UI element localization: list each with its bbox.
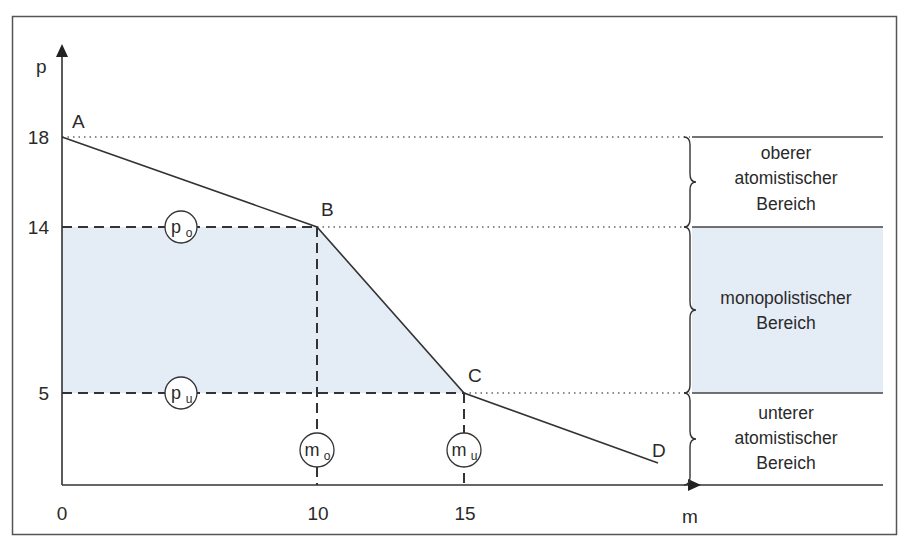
- svg-text:m: m: [305, 440, 320, 460]
- svg-text:oberer: oberer: [761, 143, 812, 163]
- marker-m-o: m o: [300, 433, 334, 467]
- svg-text:o: o: [324, 449, 331, 463]
- svg-text:p: p: [171, 217, 181, 237]
- x-tick-15: 15: [454, 503, 475, 524]
- y-tick-14: 14: [28, 217, 50, 238]
- x-axis-label: m: [682, 506, 698, 527]
- point-label-d: D: [652, 440, 666, 461]
- x-tick-0: 0: [57, 503, 68, 524]
- svg-text:atomistischer: atomistischer: [734, 428, 837, 448]
- svg-text:monopolistischer: monopolistischer: [720, 288, 851, 308]
- svg-text:unterer: unterer: [758, 403, 814, 423]
- kinked-demand-diagram: p m 18 14 5 0 10 15 A B C D p o p u m o …: [0, 0, 913, 553]
- point-label-c: C: [468, 365, 482, 386]
- point-label-a: A: [72, 111, 85, 132]
- marker-m-u: m u: [447, 433, 481, 467]
- y-tick-5: 5: [38, 383, 49, 404]
- svg-text:o: o: [186, 226, 193, 240]
- y-axis-label: p: [36, 56, 47, 77]
- y-tick-18: 18: [28, 127, 49, 148]
- svg-text:Bereich: Bereich: [756, 194, 815, 214]
- monopolistic-band-shade: [692, 227, 883, 393]
- point-label-b: B: [321, 199, 334, 220]
- x-tick-10: 10: [307, 503, 328, 524]
- svg-text:u: u: [471, 449, 478, 463]
- svg-text:u: u: [186, 392, 193, 406]
- svg-text:Bereich: Bereich: [756, 453, 815, 473]
- svg-text:Bereich: Bereich: [756, 313, 815, 333]
- svg-text:m: m: [452, 440, 467, 460]
- marker-p-u: p u: [165, 377, 197, 409]
- marker-p-o: p o: [165, 211, 197, 243]
- svg-text:p: p: [171, 383, 181, 403]
- svg-text:atomistischer: atomistischer: [734, 168, 837, 188]
